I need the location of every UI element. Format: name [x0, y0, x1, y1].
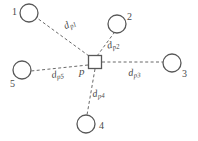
distance-label-p3-sub: p3: [133, 71, 141, 79]
distance-label-p5-sub: p5: [57, 72, 65, 81]
node-circle-5: [13, 61, 31, 79]
node-circle-2: [108, 15, 126, 33]
distance-label-p4-sub: p4: [97, 92, 105, 101]
distance-label-p4: dp4: [92, 88, 105, 99]
node-label-5: 5: [10, 79, 15, 89]
distance-label-p2-sub: p2: [112, 42, 121, 51]
node-label-1: 1: [12, 7, 17, 17]
center-node-label: p: [79, 66, 85, 77]
distance-label-p5: dp5: [51, 68, 64, 80]
distance-label-p2: dp2: [106, 39, 120, 51]
node-label-2: 2: [127, 12, 132, 22]
distance-diagram: 1 2 3 4 5 p dp1 dp2 dp3 dp4 dp5: [0, 0, 198, 141]
node-label-4: 4: [99, 121, 104, 131]
node-circle-1: [20, 4, 38, 22]
center-node-square: [89, 56, 102, 69]
node-label-3: 3: [182, 69, 187, 79]
distance-label-p3: dp3: [128, 67, 141, 78]
node-circle-3: [163, 54, 181, 72]
node-circle-4: [77, 115, 95, 133]
